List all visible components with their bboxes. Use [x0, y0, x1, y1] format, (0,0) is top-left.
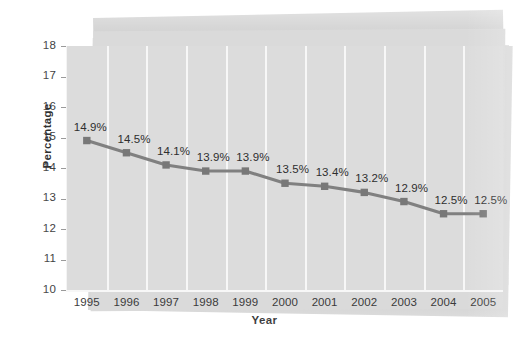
series-marker [321, 183, 328, 190]
data-point-label: 13.9% [197, 151, 230, 163]
series-marker [123, 149, 130, 156]
series-marker [83, 137, 90, 144]
series-line-percentage [87, 141, 483, 214]
y-axis-title: Percentage [41, 103, 53, 168]
data-point-label: 13.5% [276, 163, 309, 175]
series-marker [242, 167, 249, 174]
data-point-label: 13.2% [355, 172, 388, 184]
data-point-label: 13.4% [316, 166, 349, 178]
series-marker [440, 210, 447, 217]
chart-screenshot: 181716151413121110 199519961997199819992… [0, 0, 529, 345]
x-axis-title: Year [0, 314, 529, 326]
series-markers-group [83, 137, 487, 218]
series-marker [400, 198, 407, 205]
data-point-label: 14.1% [157, 145, 190, 157]
series-marker [281, 180, 288, 187]
data-point-label: 12.5% [474, 194, 507, 206]
series-marker [202, 167, 209, 174]
line-chart: 181716151413121110 199519961997199819992… [0, 0, 529, 345]
series-marker [361, 189, 368, 196]
series-layer [0, 0, 529, 345]
data-point-label: 14.9% [74, 121, 107, 133]
data-point-label: 14.5% [117, 133, 150, 145]
series-marker [162, 161, 169, 168]
data-point-label: 12.9% [395, 182, 428, 194]
data-point-label: 12.5% [435, 194, 468, 206]
series-marker [479, 210, 486, 217]
data-point-label: 13.9% [236, 151, 269, 163]
